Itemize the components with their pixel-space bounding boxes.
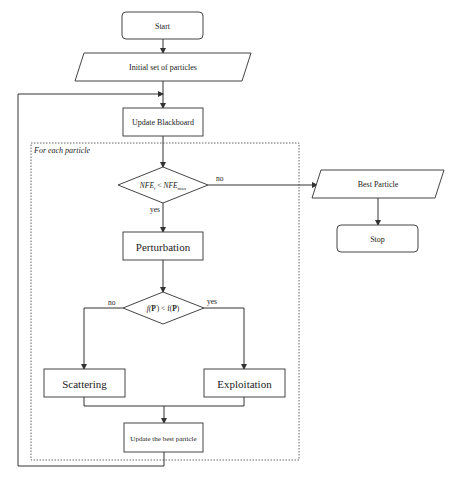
fitness-no-label: no bbox=[108, 298, 116, 307]
nfe-yes-label: yes bbox=[150, 205, 160, 214]
flowchart: For each particle Start Initial set of p… bbox=[0, 0, 459, 482]
initial-particles-node: Initial set of particles bbox=[75, 53, 251, 81]
update-blackboard-label: Update Blackboard bbox=[132, 118, 194, 127]
container-label: For each particle bbox=[33, 146, 90, 155]
initial-particles-label: Initial set of particles bbox=[129, 63, 197, 72]
nfe-no-label: no bbox=[216, 174, 224, 183]
update-best-particle-label: Update the best particle bbox=[130, 435, 196, 443]
edge-fcond-exploitation bbox=[204, 308, 244, 369]
start-label: Start bbox=[155, 22, 171, 31]
scattering-node: Scattering bbox=[44, 369, 125, 397]
exploitation-node: Exploitation bbox=[204, 369, 285, 397]
update-blackboard-node: Update Blackboard bbox=[123, 108, 203, 136]
best-particle-node: Best Particle bbox=[312, 170, 444, 198]
fitness-condition-label: f(P') < f(P) bbox=[147, 304, 180, 313]
scattering-label: Scattering bbox=[62, 378, 107, 390]
fitness-condition-node: f(P') < f(P) bbox=[123, 292, 204, 324]
nfe-condition-node: NFEi < NFEmax bbox=[118, 167, 208, 203]
perturbation-label: Perturbation bbox=[136, 241, 191, 253]
fitness-yes-label: yes bbox=[207, 297, 217, 306]
perturbation-node: Perturbation bbox=[123, 232, 203, 260]
edge-fcond-scattering bbox=[84, 308, 123, 369]
edge-scattering-merge bbox=[84, 397, 244, 406]
start-node: Start bbox=[122, 12, 203, 39]
exploitation-label: Exploitation bbox=[217, 378, 272, 390]
stop-label: Stop bbox=[370, 235, 385, 244]
stop-node: Stop bbox=[337, 225, 418, 252]
best-particle-label: Best Particle bbox=[358, 180, 399, 189]
update-best-particle-node: Update the best particle bbox=[124, 423, 203, 452]
